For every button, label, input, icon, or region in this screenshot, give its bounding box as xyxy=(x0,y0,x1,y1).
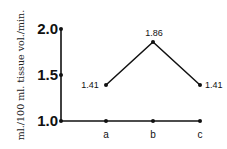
y-tick-1-0: 1.0 xyxy=(37,112,58,129)
y-tick-2-0: 2.0 xyxy=(37,20,58,37)
point-a xyxy=(104,83,108,87)
data-label-b: 1.86 xyxy=(145,28,163,38)
data-line xyxy=(106,42,200,85)
data-label-c: 1.41 xyxy=(205,80,223,90)
x-tick-b: b xyxy=(150,129,156,140)
line-chart: ml./100 ml. tissue vol./min. 2.0 1.5 1.0… xyxy=(0,0,227,149)
y-tick-1-5: 1.5 xyxy=(37,66,58,83)
point-c xyxy=(198,83,202,87)
x-tick-a: a xyxy=(103,129,109,140)
data-label-a: 1.41 xyxy=(81,80,99,90)
y-axis-label: ml./100 ml. tissue vol./min. xyxy=(15,10,26,140)
point-b xyxy=(151,40,155,44)
x-tick-c: c xyxy=(198,129,203,140)
